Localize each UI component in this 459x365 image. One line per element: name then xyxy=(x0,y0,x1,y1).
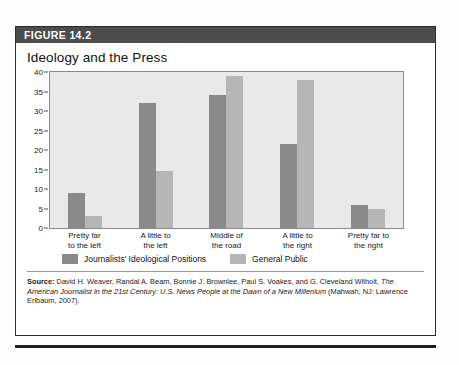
y-axis-tick-label: 25 xyxy=(34,126,43,135)
source-authors: David H. Weaver, Randal A. Beam, Bonnie … xyxy=(55,277,379,286)
bar xyxy=(280,144,297,228)
y-axis-tick-label: 5 xyxy=(39,204,43,213)
x-axis-tick-line: A little to xyxy=(123,231,189,241)
y-axis-tick-mark xyxy=(44,130,48,131)
figure-container: FIGURE 14.2 Ideology and the Press 05101… xyxy=(15,26,436,336)
x-axis-tick-line: the left xyxy=(123,241,189,251)
plot-area xyxy=(49,71,404,229)
source-lead-label: Source: xyxy=(27,277,55,286)
legend-swatch-icon xyxy=(230,254,246,264)
figure-page: FIGURE 14.2 Ideology and the Press 05101… xyxy=(0,0,459,365)
legend-item[interactable]: Journalists' Ideological Positions xyxy=(62,254,206,264)
page-title: Ideology and the Press xyxy=(16,43,435,65)
bar-chart: 0510152025303540 Pretty farto the leftA … xyxy=(27,71,419,246)
y-axis-tick-mark xyxy=(44,150,48,151)
source-citation: Source: David H. Weaver, Randal A. Beam,… xyxy=(27,277,423,306)
bar-group xyxy=(139,72,173,228)
y-axis-tick-label: 20 xyxy=(34,146,43,155)
y-axis-tick-label: 0 xyxy=(39,224,43,233)
bar-group xyxy=(280,72,314,228)
y-axis-tick-label: 10 xyxy=(34,185,43,194)
source-publisher-city: (Mahwah, xyxy=(326,287,361,296)
x-axis-tick-label: Middle ofthe road xyxy=(194,231,260,251)
y-axis-tick-mark xyxy=(44,169,48,170)
figure-banner: FIGURE 14.2 xyxy=(16,27,435,43)
x-axis-tick-label: A little tothe right xyxy=(265,231,331,251)
x-axis: Pretty farto the leftA little tothe left… xyxy=(49,231,404,251)
bar xyxy=(297,80,314,228)
x-axis-tick-line: Pretty far to xyxy=(336,231,402,241)
bar xyxy=(351,205,368,228)
y-axis-tick-mark xyxy=(44,72,48,73)
x-axis-tick-label: A little tothe left xyxy=(123,231,189,251)
x-axis-tick-line: Middle of xyxy=(194,231,260,241)
bar xyxy=(139,103,156,228)
bar xyxy=(68,193,85,228)
legend-label: Journalists' Ideological Positions xyxy=(84,254,206,264)
y-axis-tick-mark xyxy=(44,91,48,92)
bar xyxy=(209,95,226,228)
bar xyxy=(85,216,102,228)
y-axis-tick-label: 40 xyxy=(34,68,43,77)
x-axis-tick-line: Pretty far xyxy=(52,231,118,241)
y-axis-tick-label: 15 xyxy=(34,165,43,174)
bar xyxy=(156,171,173,228)
y-axis-tick-label: 35 xyxy=(34,87,43,96)
page-bottom-rule xyxy=(15,345,436,348)
bar-group xyxy=(351,72,385,228)
x-axis-tick-line: the right xyxy=(265,241,331,251)
y-axis: 0510152025303540 xyxy=(27,71,48,229)
bar-group xyxy=(68,72,102,228)
divider xyxy=(27,271,424,272)
chart-legend: Journalists' Ideological PositionsGenera… xyxy=(62,254,435,264)
x-axis-tick-line: A little to xyxy=(265,231,331,241)
legend-swatch-icon xyxy=(62,254,78,264)
x-axis-tick-line: the right xyxy=(336,241,402,251)
bars-layer xyxy=(50,72,403,228)
bar-group xyxy=(209,72,243,228)
y-axis-tick-mark xyxy=(44,228,48,229)
y-axis-tick-label: 30 xyxy=(34,107,43,116)
bar xyxy=(368,209,385,229)
y-axis-tick-mark xyxy=(44,111,48,112)
legend-label: General Public xyxy=(252,254,308,264)
x-axis-tick-line: the road xyxy=(194,241,260,251)
figure-number-label: FIGURE 14.2 xyxy=(24,29,91,41)
x-axis-tick-label: Pretty farto the left xyxy=(52,231,118,251)
x-axis-tick-line: to the left xyxy=(52,241,118,251)
bar xyxy=(226,76,243,228)
x-axis-tick-label: Pretty far tothe right xyxy=(336,231,402,251)
legend-item[interactable]: General Public xyxy=(230,254,308,264)
y-axis-tick-mark xyxy=(44,189,48,190)
y-axis-tick-mark xyxy=(44,208,48,209)
